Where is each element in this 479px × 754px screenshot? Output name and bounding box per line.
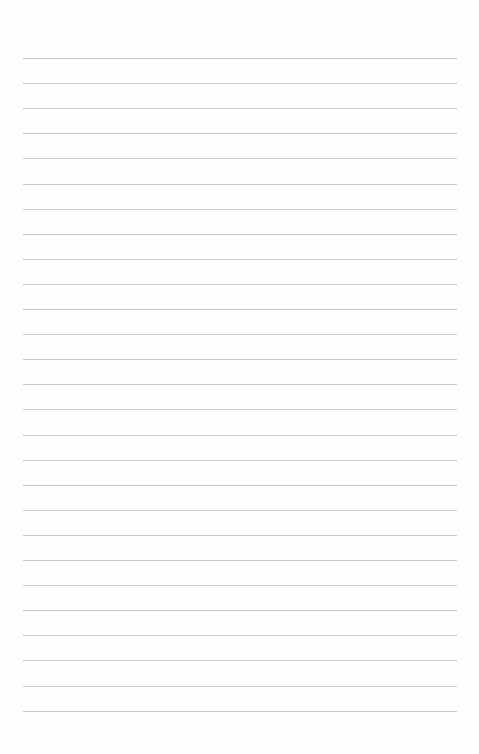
ruled-line <box>23 83 457 84</box>
ruled-line <box>23 686 457 687</box>
ruled-line <box>23 58 457 59</box>
ruled-line <box>23 460 457 461</box>
ruled-line <box>23 334 457 335</box>
ruled-line <box>23 635 457 636</box>
ruled-line <box>23 108 457 109</box>
ruled-line <box>23 409 457 410</box>
ruled-line <box>23 585 457 586</box>
ruled-line <box>23 485 457 486</box>
ruled-line <box>23 660 457 661</box>
ruled-line <box>23 535 457 536</box>
ruled-line <box>23 435 457 436</box>
ruled-line <box>23 209 457 210</box>
ruled-line <box>23 560 457 561</box>
ruled-line <box>23 133 457 134</box>
ruled-line <box>23 184 457 185</box>
ruled-line <box>23 309 457 310</box>
ruled-line <box>23 610 457 611</box>
ruled-line <box>23 711 457 712</box>
ruled-line <box>23 384 457 385</box>
ruled-line <box>23 284 457 285</box>
ruled-line <box>23 234 457 235</box>
ruled-line <box>23 158 457 159</box>
ruled-line <box>23 359 457 360</box>
lined-paper-sheet <box>0 0 479 754</box>
ruled-line <box>23 510 457 511</box>
ruled-line <box>23 259 457 260</box>
